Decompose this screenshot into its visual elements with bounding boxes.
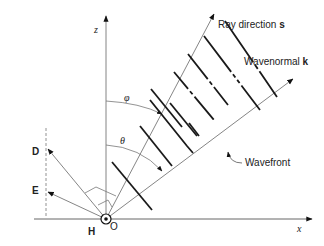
theta-angle-arc [106, 145, 162, 171]
ray-direction-label: Ray direction s [218, 19, 285, 30]
x-axis-label: x [296, 223, 302, 234]
wavefronts [112, 21, 277, 210]
wavenormal-symbol: k [303, 56, 309, 67]
wavenormal-vector [106, 79, 293, 219]
phi-label: φ [124, 92, 130, 103]
diagram-canvas: z x O H D E φ θ Ray direction s Wavenorm… [0, 0, 324, 246]
ray-direction-vector [106, 14, 214, 219]
d-label: D [32, 146, 39, 157]
h-label: H [88, 226, 95, 237]
wavenormal-text: Wavenormal [244, 56, 303, 67]
d-vector [48, 149, 106, 219]
right-angle-marker-large [85, 187, 116, 196]
ray-direction-text: Ray direction [218, 19, 279, 30]
wavefront-callout-arrow [228, 152, 242, 163]
phi-angle-arc [106, 101, 162, 114]
h-field-dot-icon [104, 217, 108, 221]
wavefront-label: Wavefront [245, 157, 290, 168]
ray-direction-symbol: s [279, 19, 285, 30]
origin-label: O [110, 221, 118, 232]
z-axis-label: z [93, 24, 98, 35]
wavenormal-label: Wavenormal k [244, 56, 309, 67]
theta-label: θ [120, 135, 125, 146]
right-angle-marker-small [98, 200, 112, 207]
e-label: E [32, 185, 39, 196]
e-vector [48, 192, 106, 219]
